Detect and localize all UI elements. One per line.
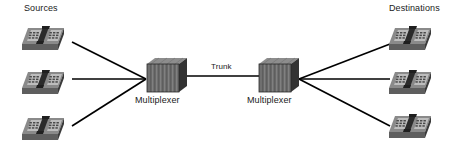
link-destination-3	[299, 79, 390, 126]
source-phone-3	[18, 112, 70, 145]
link-destination-1	[299, 44, 390, 79]
link-source-1	[72, 42, 146, 79]
destination-phone-3	[385, 110, 437, 143]
source-phone-2	[18, 66, 70, 99]
multiplexer-right-label: Multiplexer	[247, 95, 292, 105]
destinations-label: Destinations	[389, 3, 440, 13]
multiplexer-left	[145, 57, 189, 95]
trunk-label: Trunk	[211, 62, 232, 71]
multiplexer-left-label: Multiplexer	[135, 95, 180, 105]
destination-phone-2	[385, 66, 437, 99]
multiplexer-right	[257, 57, 301, 95]
network-diagram: Sources Destinations Trunk Multiplexer M…	[0, 0, 455, 152]
sources-label: Sources	[24, 3, 58, 13]
source-phone-1	[18, 22, 70, 55]
destination-phone-1	[385, 22, 437, 55]
